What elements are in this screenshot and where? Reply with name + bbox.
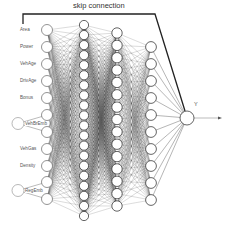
- input-label-vehgas: VehGas: [20, 146, 36, 151]
- hidden-node: [79, 201, 88, 210]
- hidden-node: [79, 30, 88, 39]
- hidden-node: [79, 41, 88, 50]
- hidden-node: [79, 151, 88, 160]
- embedding-label-vehbremb: VehBrEmb: [25, 121, 47, 126]
- hidden-node: [79, 141, 88, 150]
- input-label-vehage: VehAge: [20, 61, 36, 66]
- hidden-node: [112, 201, 122, 211]
- hidden-node: [112, 164, 122, 174]
- hidden-node: [79, 111, 88, 120]
- hidden-node: [146, 144, 157, 155]
- output-label: Y: [194, 101, 198, 107]
- input-label-power: Power: [20, 44, 33, 49]
- hidden-node: [112, 102, 122, 112]
- hidden-node: [146, 93, 157, 104]
- hidden-node: [79, 91, 88, 100]
- hidden-node: [112, 127, 122, 137]
- hidden-node: [79, 171, 88, 180]
- hidden-node: [112, 40, 122, 50]
- hidden-node: [112, 151, 122, 161]
- input-node: [42, 161, 53, 172]
- hidden-node: [112, 90, 122, 100]
- embedding-node: [12, 185, 24, 197]
- input-node: [42, 76, 53, 87]
- hidden-node: [79, 101, 88, 110]
- hidden-node: [112, 65, 122, 75]
- hidden-node: [112, 53, 122, 63]
- hidden-node: [146, 161, 157, 172]
- input-node: [42, 177, 53, 188]
- input-label-area: Area: [20, 27, 30, 32]
- input-node: [42, 25, 53, 36]
- embedding-node: [12, 118, 24, 130]
- input-label-bonus: Bonus: [20, 95, 33, 100]
- input-node: [42, 127, 53, 138]
- hidden-node: [146, 110, 157, 121]
- hidden-node: [79, 121, 88, 130]
- input-label-density: Density: [20, 163, 35, 168]
- hidden-node: [79, 71, 88, 80]
- input-node: [42, 144, 53, 155]
- hidden-node: [146, 178, 157, 189]
- output-node: [180, 111, 194, 125]
- hidden-node: [79, 181, 88, 190]
- hidden-node: [112, 139, 122, 149]
- hidden-node: [112, 188, 122, 198]
- input-node: [42, 110, 53, 121]
- hidden-node: [79, 161, 88, 170]
- embedding-label-regemb: RegEmb: [25, 188, 43, 193]
- skip-connection-label: skip connection: [73, 1, 125, 10]
- hidden-node: [79, 61, 88, 70]
- hidden-node: [79, 131, 88, 140]
- input-node: [42, 59, 53, 70]
- hidden-node: [79, 81, 88, 90]
- hidden-node: [146, 59, 157, 70]
- input-label-drivage: DrivAge: [20, 78, 36, 83]
- hidden-node: [112, 176, 122, 186]
- hidden-node: [79, 191, 88, 200]
- input-node: [42, 194, 53, 205]
- hidden-node: [146, 127, 157, 138]
- input-node: [42, 93, 53, 104]
- hidden-node: [79, 211, 88, 220]
- hidden-node: [146, 76, 157, 87]
- hidden-node: [79, 20, 88, 29]
- hidden-node: [79, 51, 88, 60]
- input-node: [42, 42, 53, 53]
- hidden-node: [112, 77, 122, 87]
- hidden-node: [112, 28, 122, 38]
- hidden-node: [146, 195, 157, 206]
- hidden-node: [146, 42, 157, 53]
- hidden-node: [112, 114, 122, 124]
